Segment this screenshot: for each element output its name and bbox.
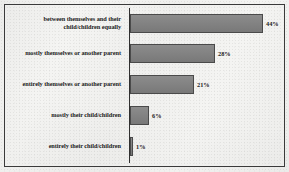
- bar-category-label: between themselves and their child/child…: [5, 15, 125, 30]
- bar-value-label: 1%: [136, 143, 145, 150]
- bar-fill: [130, 137, 133, 156]
- bar-row: between themselves and their child/child…: [5, 8, 284, 38]
- bar-fill: [130, 14, 263, 33]
- bar-track: 6%: [125, 100, 284, 130]
- bar-category-label: mostly their child/children: [5, 111, 125, 119]
- bar-fill: [130, 75, 194, 94]
- bar-category-label: entirely themselves or another parent: [5, 80, 125, 88]
- bar-fill: [130, 44, 215, 63]
- bar-category-label: mostly themselves or another parent: [5, 49, 125, 57]
- bar-track: 1%: [125, 131, 284, 161]
- bar-row: mostly their child/children 6%: [5, 100, 284, 130]
- bar-track: 44%: [125, 8, 284, 38]
- bar-value-label: 6%: [152, 112, 161, 119]
- bar-row: entirely themselves or another parent 21…: [5, 69, 284, 99]
- bar-track: 28%: [125, 38, 284, 68]
- bar-value-label: 44%: [266, 20, 279, 27]
- plot-area: between themselves and their child/child…: [5, 5, 284, 166]
- bar-series: between themselves and their child/child…: [5, 5, 284, 166]
- bar-row: mostly themselves or another parent 28%: [5, 38, 284, 68]
- bar-track: 21%: [125, 69, 284, 99]
- bar-fill: [130, 106, 149, 125]
- bar-value-label: 21%: [197, 81, 210, 88]
- bar-value-label: 28%: [218, 50, 231, 57]
- bar-row: entirely their child/children 1%: [5, 131, 284, 161]
- bar-category-label: entirely their child/children: [5, 142, 125, 150]
- bar-chart-figure: between themselves and their child/child…: [0, 0, 289, 172]
